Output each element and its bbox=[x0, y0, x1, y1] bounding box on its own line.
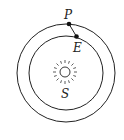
earth-e-dot bbox=[74, 34, 79, 39]
label-s: S bbox=[61, 87, 69, 101]
outer-orbit bbox=[17, 24, 115, 122]
sun-icon bbox=[53, 60, 77, 84]
label-p: P bbox=[63, 8, 73, 22]
orbit-diagram: P E S bbox=[0, 0, 124, 140]
label-e: E bbox=[72, 41, 82, 55]
planet-p-dot bbox=[67, 22, 72, 27]
